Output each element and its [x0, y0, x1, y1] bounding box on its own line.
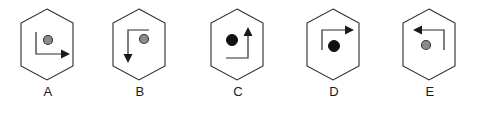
dot-black-d: [329, 41, 340, 52]
option-c[interactable]: C: [190, 0, 286, 113]
dot-gray-b: [140, 35, 149, 44]
option-b[interactable]: B: [92, 0, 188, 113]
option-d-diagram: [286, 4, 382, 82]
option-label-d: D: [286, 84, 382, 100]
option-label-a: A: [0, 84, 96, 100]
option-e-diagram: [382, 4, 478, 82]
hexagon-options-figure: A B C D: [0, 0, 480, 113]
dot-gray-a: [44, 36, 53, 45]
hexagon-outline-b: [113, 9, 165, 80]
option-label-c: C: [190, 84, 286, 100]
hexagon-outline-c: [211, 9, 263, 80]
option-a[interactable]: A: [0, 0, 96, 113]
option-b-diagram: [92, 4, 188, 82]
option-label-e: E: [382, 84, 478, 100]
option-e[interactable]: E: [382, 0, 478, 113]
option-c-diagram: [190, 4, 286, 82]
option-a-diagram: [0, 4, 96, 82]
dot-black-c: [227, 35, 238, 46]
option-label-b: B: [92, 84, 188, 100]
option-d[interactable]: D: [286, 0, 382, 113]
dot-gray-e: [422, 41, 431, 50]
